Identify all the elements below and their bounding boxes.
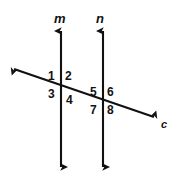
- label-line-c: c: [161, 119, 167, 130]
- line-c-transversal: [14, 69, 154, 117]
- angle-label-5: 5: [90, 86, 97, 98]
- angle-label-2: 2: [65, 70, 72, 82]
- label-line-m: m: [54, 12, 66, 25]
- angle-label-7: 7: [90, 104, 97, 116]
- angle-label-8: 8: [107, 104, 114, 116]
- angle-label-6: 6: [107, 86, 114, 98]
- angle-label-4: 4: [66, 94, 73, 106]
- angle-label-1: 1: [48, 70, 55, 82]
- geometry-figure: m n c 1 2 3 4 5 6 7 8: [0, 0, 179, 176]
- angle-label-3: 3: [48, 88, 55, 100]
- label-line-n: n: [96, 12, 104, 25]
